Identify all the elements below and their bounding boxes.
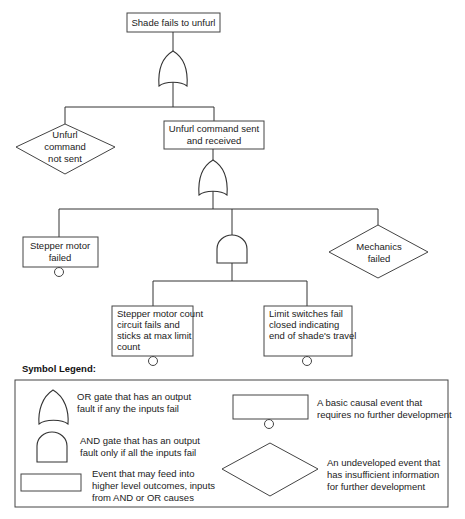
legend-basic-event-icon [233, 395, 308, 419]
svg-text:An undeveloped event that: An undeveloped event that [327, 457, 440, 468]
basic-event-limit-switches-fail: Limit switches fail closed indicating en… [264, 306, 356, 366]
svg-text:not sent: not sent [48, 153, 82, 164]
basic-event-stepper-motor-failed: Stepper motor failed [23, 237, 98, 277]
svg-text:for further development: for further development [327, 481, 426, 492]
svg-text:A basic causal event that: A basic causal event that [317, 397, 422, 408]
svg-text:fault if any the inputs fail: fault if any the inputs fail [77, 403, 179, 414]
svg-text:Limit switches fail: Limit switches fail [269, 308, 343, 319]
basic-event-circle-icon [149, 357, 158, 366]
svg-text:has insufficient information: has insufficient information [327, 469, 439, 480]
svg-text:AND gate that has an output: AND gate that has an output [80, 435, 200, 446]
legend-basic-event-circle-icon [265, 420, 274, 429]
top-event: Shade fails to unfurl [127, 13, 220, 32]
svg-text:Unfurl: Unfurl [52, 129, 77, 140]
and-gate-icon [217, 235, 247, 263]
svg-text:OR gate that has an output: OR gate that has an output [77, 391, 191, 402]
or-gate-icon [159, 51, 187, 86]
legend-and-gate-icon [37, 432, 67, 462]
svg-text:sticks at max limit: sticks at max limit [117, 330, 192, 341]
svg-text:Mechanics: Mechanics [356, 241, 402, 252]
undeveloped-event-unfurl-command-not-sent: Unfurl command not sent [16, 124, 115, 174]
legend-event-rect-icon [21, 474, 81, 491]
top-event-label: Shade fails to unfurl [132, 17, 216, 28]
svg-text:failed: failed [368, 253, 391, 264]
svg-text:fault only if all the inputs f: fault only if all the inputs fail [80, 447, 196, 458]
basic-event-circle-icon [55, 268, 64, 277]
svg-text:Stepper motor: Stepper motor [30, 240, 90, 251]
svg-text:higher level outcomes, inputs: higher level outcomes, inputs [92, 480, 215, 491]
undeveloped-event-mechanics-failed: Mechanics failed [329, 225, 428, 278]
event-unfurl-command-sent-and-received: Unfurl command sent and received [164, 121, 264, 149]
or-gate-icon [199, 160, 227, 195]
svg-text:failed: failed [49, 252, 72, 263]
svg-text:and received: and received [187, 135, 241, 146]
svg-text:closed indicating: closed indicating [269, 319, 339, 330]
fault-tree-diagram: Shade fails to unfurl Unfurl command not… [0, 0, 465, 519]
svg-text:command: command [44, 141, 86, 152]
svg-text:requires no further developmen: requires no further development [317, 409, 452, 420]
svg-text:circuit fails and: circuit fails and [117, 319, 180, 330]
legend-title: Symbol Legend: [22, 363, 96, 374]
svg-text:from AND or OR causes: from AND or OR causes [92, 492, 194, 503]
svg-text:Event that may feed into: Event that may feed into [92, 468, 194, 479]
basic-event-circle-icon [303, 357, 312, 366]
basic-event-stepper-motor-count-circuit: Stepper motor count circuit fails and st… [112, 306, 203, 366]
svg-text:Stepper motor count: Stepper motor count [117, 308, 203, 319]
svg-text:Unfurl command sent: Unfurl command sent [169, 123, 260, 134]
svg-text:count: count [117, 341, 141, 352]
svg-text:end of shade's travel: end of shade's travel [269, 330, 356, 341]
